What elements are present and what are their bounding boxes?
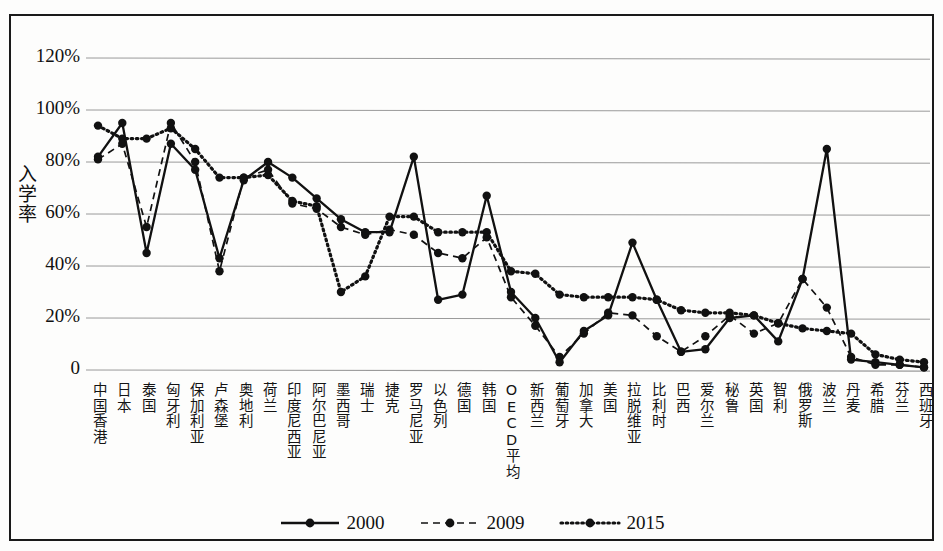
data-point — [823, 303, 831, 311]
data-point — [774, 319, 782, 327]
chart-figure: 020%40%60%80%100%120% 中国香港日本泰国匈牙利保加利亚卢森堡… — [0, 0, 943, 551]
x-tick-label: 捷克 — [382, 382, 397, 413]
x-tick-label: 俄罗斯 — [795, 382, 810, 429]
data-point — [264, 158, 272, 166]
data-point — [798, 324, 806, 332]
data-point — [118, 119, 126, 127]
x-tick-label: 荷兰 — [261, 382, 276, 413]
x-tick-label: 西班牙 — [917, 382, 932, 429]
data-point — [288, 199, 296, 207]
data-point — [288, 173, 296, 181]
x-tick-label: 卢森堡 — [212, 382, 227, 429]
y-tick-label: 80% — [45, 149, 80, 171]
x-tick-label: 智利 — [771, 382, 786, 413]
data-point — [750, 329, 758, 337]
x-tick-label: 罗马尼亚 — [406, 382, 421, 444]
gridline — [86, 162, 930, 163]
data-point — [312, 194, 320, 202]
legend-entry-2015[interactable]: 2015 — [559, 512, 665, 534]
data-point — [920, 363, 928, 371]
x-tick-label: 印度尼西亚 — [285, 382, 300, 460]
data-point — [167, 119, 175, 127]
x-tick-label: 秘鲁 — [722, 382, 737, 413]
data-point — [823, 327, 831, 335]
x-tick-label: 爱尔兰 — [698, 382, 713, 429]
data-point — [628, 311, 636, 319]
y-tick-label: 120% — [36, 45, 80, 67]
data-point — [677, 348, 685, 356]
x-tick-label: 葡萄牙 — [552, 382, 567, 429]
data-point — [580, 293, 588, 301]
y-axis-title: 入学率 — [16, 165, 38, 225]
x-tick-label: 德国 — [455, 382, 470, 413]
data-point — [458, 228, 466, 236]
x-tick-label: 阿尔巴尼亚 — [309, 382, 324, 460]
data-point — [701, 309, 709, 317]
data-point — [725, 314, 733, 322]
data-point — [240, 176, 248, 184]
data-point — [410, 231, 418, 239]
data-point — [555, 358, 563, 366]
data-point — [215, 254, 223, 262]
data-point — [507, 267, 515, 275]
x-tick-label: 中国香港 — [91, 382, 106, 444]
x-tick-label: 巴西 — [674, 382, 689, 413]
data-point — [385, 228, 393, 236]
data-point — [774, 337, 782, 345]
data-point — [604, 293, 612, 301]
chart-canvas — [0, 0, 943, 551]
data-point — [434, 228, 442, 236]
y-tick-label: 40% — [45, 253, 80, 275]
data-point — [434, 249, 442, 257]
x-tick-label: 韩国 — [479, 382, 494, 413]
data-point — [871, 350, 879, 358]
gridlines — [86, 58, 930, 371]
data-point — [215, 173, 223, 181]
legend-entry-2009[interactable]: 2009 — [419, 512, 525, 534]
series-2000 — [94, 119, 928, 372]
x-tick-label: 匈牙利 — [163, 382, 178, 429]
data-point — [167, 140, 175, 148]
series-2009 — [94, 119, 928, 372]
legend-entry-2000[interactable]: 2000 — [279, 512, 385, 534]
x-tick-label: 泰国 — [139, 382, 154, 413]
data-point — [337, 223, 345, 231]
data-point — [94, 121, 102, 129]
data-point — [628, 238, 636, 246]
plot-area: 020%40%60%80%100%120% 中国香港日本泰国匈牙利保加利亚卢森堡… — [0, 0, 943, 551]
data-point — [531, 270, 539, 278]
data-point — [483, 233, 491, 241]
data-point — [142, 134, 150, 142]
data-point — [483, 192, 491, 200]
data-point — [677, 306, 685, 314]
data-point — [361, 228, 369, 236]
data-point — [847, 355, 855, 363]
data-point — [215, 267, 223, 275]
x-tick-label: 美国 — [601, 382, 616, 413]
chart-legend: 200020092015 — [0, 512, 943, 534]
data-point — [142, 249, 150, 257]
data-point — [458, 290, 466, 298]
legend-line-sample — [559, 515, 621, 531]
data-point — [750, 311, 758, 319]
x-tick-label: OECD平均 — [504, 382, 519, 479]
legend-line-sample — [279, 515, 341, 531]
legend-label: 2000 — [347, 512, 385, 534]
data-point — [361, 272, 369, 280]
data-point — [94, 153, 102, 161]
x-tick-label: 新西兰 — [528, 382, 543, 429]
data-point — [871, 358, 879, 366]
x-tick-label: 希腊 — [868, 382, 883, 413]
data-point — [264, 166, 272, 174]
data-point — [458, 254, 466, 262]
data-point — [653, 296, 661, 304]
x-tick-label: 芬兰 — [892, 382, 907, 413]
x-tick-label: 波兰 — [819, 382, 834, 413]
data-point — [653, 332, 661, 340]
data-point — [191, 145, 199, 153]
x-tick-label: 加拿大 — [576, 382, 591, 429]
gridline — [86, 58, 930, 59]
legend-line-sample — [419, 515, 481, 531]
data-point — [191, 158, 199, 166]
data-point — [604, 311, 612, 319]
